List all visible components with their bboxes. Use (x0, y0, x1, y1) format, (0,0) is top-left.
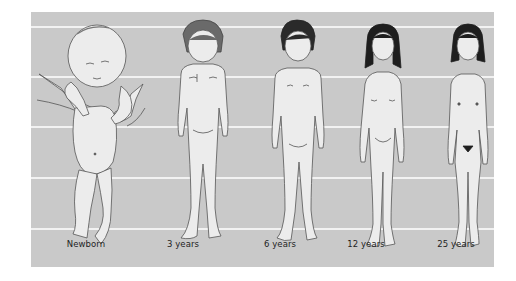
label-12-years: 12 years (347, 239, 385, 249)
label-25-years: 25 years (437, 239, 475, 249)
figures-illustration (31, 12, 494, 267)
label-6-years: 6 years (264, 239, 296, 249)
six-year-old-figure (272, 20, 324, 241)
label-3-years: 3 years (167, 239, 199, 249)
twelve-year-old-figure (360, 24, 404, 247)
adult-figure (448, 24, 488, 247)
three-year-old-figure (178, 20, 228, 239)
diagram-panel (31, 12, 494, 267)
label-newborn: Newborn (67, 239, 106, 249)
newborn-figure (37, 25, 145, 244)
